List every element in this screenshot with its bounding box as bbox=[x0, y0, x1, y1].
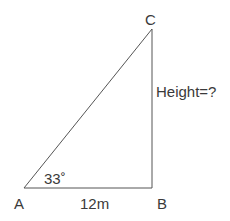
vertex-label-a: A bbox=[14, 196, 24, 211]
vertex-label-c: C bbox=[145, 12, 156, 27]
angle-label: 33˚ bbox=[44, 171, 66, 186]
vertex-label-b: B bbox=[157, 196, 167, 211]
base-length-label: 12m bbox=[80, 196, 109, 211]
side-ac-hypotenuse bbox=[24, 29, 152, 188]
height-label: Height=? bbox=[156, 84, 216, 99]
triangle-diagram bbox=[0, 0, 230, 221]
